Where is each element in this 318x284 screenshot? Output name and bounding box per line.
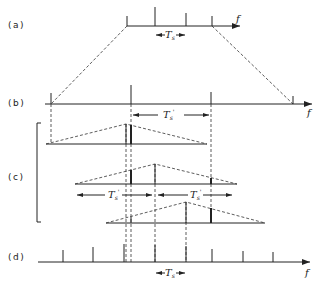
panel-c: (c) Ts' Ts' [8, 123, 265, 223]
expansion-line-right [212, 26, 293, 104]
panel-c-label: (c) [8, 172, 24, 182]
panel-b: (b) f Ts' [8, 85, 313, 121]
panel-d-spacing-label: Ts [165, 267, 175, 279]
panel-a-spacing-label: Ts [165, 29, 175, 41]
panel-a: (a) f Ts [8, 7, 242, 41]
panel-b-spacing-label: Ts' [163, 108, 175, 121]
panel-d-label: (d) [8, 252, 25, 262]
panel-d-axis-label: f [304, 267, 311, 278]
panel-c-spacing-left: Ts' [108, 188, 120, 201]
expansion-line-left [51, 26, 127, 104]
sampling-diagram: (a) f Ts (b) f Ts' (c) [0, 0, 318, 284]
panel-b-axis-label: f [306, 107, 313, 118]
panel-c-spacing-right: Ts' [190, 188, 202, 201]
c-row2-envelope [75, 164, 237, 184]
panel-d: (d) f Ts [8, 244, 311, 279]
panel-c-bracket [37, 123, 41, 222]
panel-b-label: (b) [8, 98, 25, 108]
panel-a-axis-label: f [235, 13, 242, 24]
panel-a-label: (a) [8, 20, 25, 30]
